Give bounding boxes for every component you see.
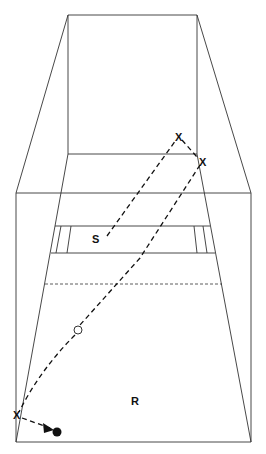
waypoint-open-circle <box>74 326 82 334</box>
arrow-head-icon <box>43 423 54 433</box>
label-s: S <box>92 233 99 245</box>
middle-band <box>51 226 215 253</box>
label-x3: X <box>13 409 21 421</box>
label-x1: X <box>175 131 183 143</box>
ceiling-edges <box>16 15 251 193</box>
label-x2: X <box>199 156 207 168</box>
endpoint-filled-circle <box>53 428 62 437</box>
label-r: R <box>131 395 139 407</box>
room-diagram: X X S R X <box>0 0 266 454</box>
